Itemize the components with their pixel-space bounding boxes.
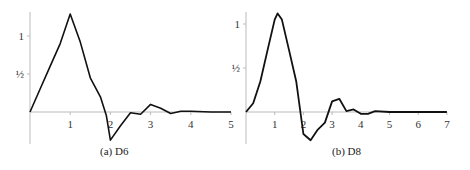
y-tick-label: 1 [19, 30, 25, 42]
chart-canvas: 123451½ 12345671½ [0, 0, 470, 170]
chart-d8: 12345671½ [232, 12, 450, 144]
caption-d8: (b) D8 [332, 145, 361, 157]
caption-d6: (a) D6 [100, 145, 128, 157]
x-tick-label: 3 [329, 118, 335, 130]
y-tick-label: ½ [16, 68, 24, 80]
y-tick-label: ½ [232, 62, 240, 74]
x-tick-label: 4 [358, 118, 364, 130]
x-tick-label: 3 [148, 118, 154, 130]
data-line [30, 14, 231, 140]
x-tick-label: 6 [415, 118, 421, 130]
x-tick-label: 1 [67, 118, 73, 130]
x-tick-label: 1 [272, 118, 278, 130]
y-tick-label: 1 [235, 18, 241, 30]
chart-d6: 123451½ [16, 12, 235, 144]
x-tick-label: 5 [228, 118, 234, 130]
x-tick-label: 7 [444, 118, 450, 130]
x-tick-label: 5 [387, 118, 393, 130]
x-tick-label: 4 [188, 118, 194, 130]
